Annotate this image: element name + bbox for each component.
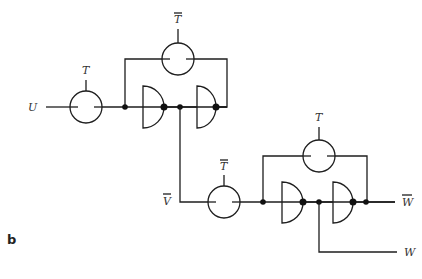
control-label-t: T (82, 64, 91, 77)
circuit-diagram: U T T (0, 0, 422, 279)
control-label-t: T (315, 111, 324, 124)
stage2-feedback-switch: T (303, 111, 335, 172)
gate-output-dot (300, 199, 307, 206)
control-label-t-bar: T (220, 160, 229, 173)
gate-output-dot (161, 104, 168, 111)
junction-dot (122, 104, 128, 110)
stage1-input-switch: T (70, 64, 102, 123)
stage2-input-switch: T (208, 160, 240, 218)
stage1-feedback-switch: T (162, 13, 194, 75)
w-output-wire (319, 202, 397, 252)
panel-label: b (7, 232, 16, 247)
stage-2: T T W W (208, 111, 417, 259)
gate-output-dot (213, 104, 220, 111)
output-label-w-bar: W (402, 196, 415, 209)
junction-dot (363, 199, 369, 205)
control-label-t-bar: T (174, 13, 183, 26)
intermediate-label-v-bar: V (163, 195, 172, 208)
input-label-u: U (28, 101, 38, 114)
junction-dot (260, 199, 266, 205)
output-label-w: W (404, 246, 417, 259)
gate-output-dot (350, 199, 357, 206)
stage-1: U T T (28, 13, 227, 128)
